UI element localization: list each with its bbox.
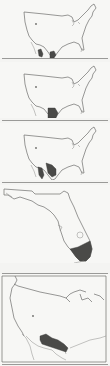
us-outline-map [0, 123, 110, 180]
range-map-panel-1 [0, 0, 110, 58]
florida-outline-map [0, 185, 110, 263]
us-outline-map [0, 62, 110, 118]
southwest-us-outline-map [0, 274, 110, 364]
panel-separator [2, 120, 108, 121]
panel-separator [2, 58, 108, 59]
location-dot [35, 147, 37, 149]
panel-separator [2, 182, 108, 183]
us-outline-map [0, 0, 110, 58]
range-area-texas [50, 51, 56, 58]
location-dot [32, 315, 34, 317]
lake-okeechobee [77, 232, 83, 238]
range-area-west [38, 49, 43, 57]
range-map-panel-4 [0, 185, 110, 263]
range-area-texas [48, 108, 58, 118]
range-map-panel-3 [0, 123, 110, 180]
range-map-panel-2 [0, 62, 110, 118]
panel-separator [2, 364, 108, 365]
location-dot [35, 86, 37, 88]
range-area-southwest [40, 334, 68, 352]
range-map-panel-5 [0, 274, 110, 364]
range-area-west [38, 167, 44, 179]
range-area-south-florida [70, 241, 92, 261]
location-dot [35, 23, 37, 25]
